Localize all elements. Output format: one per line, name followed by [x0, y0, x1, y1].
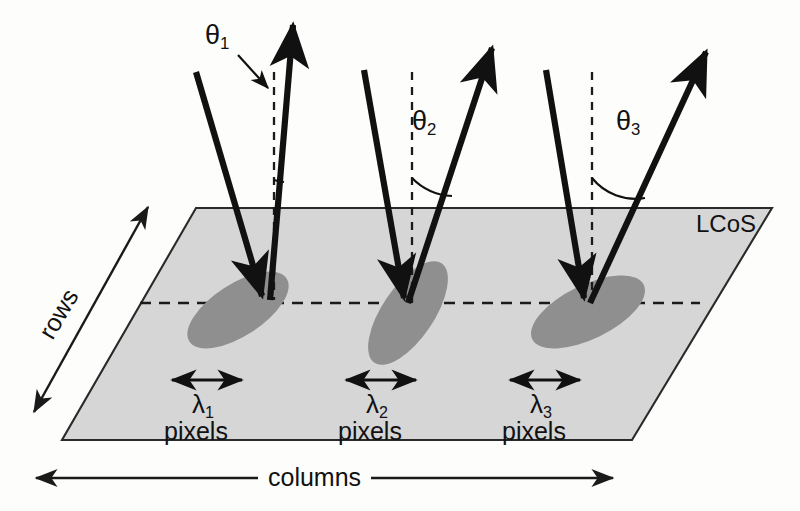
pixels-label-3: pixels: [502, 419, 566, 444]
lcos-device-label: LCoS: [696, 212, 756, 236]
theta-1-label: θ1: [205, 22, 229, 49]
lambda-1-label: λ1: [192, 391, 214, 417]
pixels-label-2: pixels: [338, 419, 402, 444]
lambda-3-label: λ3: [530, 391, 552, 417]
theta-2-label: θ2: [412, 108, 436, 135]
lambda-2-label: λ2: [366, 391, 388, 417]
pixels-label-1: pixels: [164, 419, 228, 444]
theta-3-label: θ3: [616, 108, 640, 135]
theta-1-leader-arrow: [238, 55, 268, 88]
lcos-diffraction-figure: θ1 θ2 θ3 LCoS λ1 pixels λ2 pixels λ3 pix…: [0, 0, 800, 511]
columns-axis-label: columns: [258, 465, 371, 490]
